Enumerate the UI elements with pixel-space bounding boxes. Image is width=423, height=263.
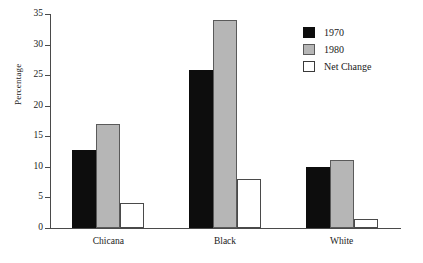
legend-item-net-change[interactable]: Net Change bbox=[303, 58, 372, 75]
y-tick-mark bbox=[45, 228, 50, 229]
y-axis-title: Percentage bbox=[13, 64, 23, 105]
x-axis-label-black: Black bbox=[214, 236, 236, 246]
legend-label-1980: 1980 bbox=[324, 44, 344, 55]
y-tick-mark bbox=[45, 14, 50, 15]
bar-black-1970[interactable] bbox=[189, 70, 213, 228]
bar-chicana-1970[interactable] bbox=[72, 150, 96, 228]
bar-chicana-1980[interactable] bbox=[96, 124, 120, 228]
bar-chicana-net-change[interactable] bbox=[120, 203, 144, 228]
legend-label-net-change: Net Change bbox=[324, 61, 372, 72]
y-tick-label: 25 bbox=[34, 70, 44, 80]
legend-swatch-net-change-icon bbox=[303, 61, 315, 72]
y-tick-mark bbox=[45, 136, 50, 137]
y-tick-label: 20 bbox=[34, 101, 44, 111]
bar-white-net-change[interactable] bbox=[354, 219, 378, 228]
legend-item-1970[interactable]: 1970 bbox=[303, 24, 372, 41]
y-tick-mark bbox=[45, 197, 50, 198]
legend-label-1970: 1970 bbox=[324, 27, 344, 38]
x-axis-line bbox=[50, 228, 401, 229]
y-tick-label: 0 bbox=[38, 223, 43, 233]
legend-item-1980[interactable]: 1980 bbox=[303, 41, 372, 58]
y-tick-label: 5 bbox=[38, 193, 43, 203]
bar-group-black bbox=[189, 14, 261, 228]
bar-white-1980[interactable] bbox=[330, 160, 354, 228]
bar-group-chicana bbox=[72, 14, 144, 228]
y-tick-label: 30 bbox=[34, 40, 44, 50]
legend-swatch-1980-icon bbox=[303, 44, 315, 55]
y-tick-mark bbox=[45, 75, 50, 76]
x-axis-label-white: White bbox=[330, 236, 353, 246]
y-tick-mark bbox=[45, 45, 50, 46]
y-tick-label: 10 bbox=[34, 162, 44, 172]
y-tick-mark bbox=[45, 106, 50, 107]
bar-black-1980[interactable] bbox=[213, 20, 237, 228]
bar-white-1970[interactable] bbox=[306, 167, 330, 228]
y-tick-label: 35 bbox=[34, 9, 44, 19]
chart-legend: 1970 1980 Net Change bbox=[303, 24, 372, 75]
x-axis-label-chicana: Chicana bbox=[93, 236, 124, 246]
y-tick-mark bbox=[45, 167, 50, 168]
y-tick-label: 15 bbox=[34, 132, 44, 142]
bar-chart-figure: Percentage 05101520253035 ChicanaBlackWh… bbox=[0, 0, 423, 263]
bar-black-net-change[interactable] bbox=[237, 179, 261, 228]
legend-swatch-1970-icon bbox=[303, 27, 315, 38]
